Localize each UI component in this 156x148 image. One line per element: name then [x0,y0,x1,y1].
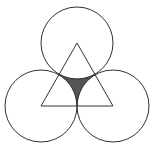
tangent-circles-diagram [0,0,156,148]
